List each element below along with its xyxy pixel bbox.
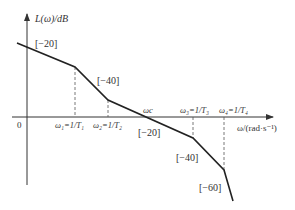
- freq-label-wc: ωc: [143, 105, 153, 115]
- freq-label-w3: ω₃=1/T₃: [180, 105, 209, 115]
- bode-diagram: L(ω)/dB ω/(rad·s⁻¹) 0 ω₁=1/T₁ ω₂=1/T₂ ωc…: [0, 0, 295, 210]
- slope-label-3: [−20]: [138, 127, 160, 138]
- y-axis-label: L(ω)/dB: [34, 13, 68, 25]
- freq-label-w4: ω₄=1/T₄: [219, 105, 248, 115]
- magnitude-curve: [17, 43, 233, 201]
- freq-label-w2: ω₂=1/T₂: [93, 120, 122, 130]
- freq-label-w1: ω₁=1/T₁: [55, 120, 84, 130]
- slope-label-5: [−60]: [199, 182, 221, 193]
- slope-label-1: [−20]: [35, 38, 57, 49]
- slope-label-2: [−40]: [97, 75, 119, 86]
- x-axis-label: ω/(rad·s⁻¹): [237, 123, 277, 133]
- origin-label: 0: [17, 120, 22, 130]
- slope-label-4: [−40]: [176, 152, 198, 163]
